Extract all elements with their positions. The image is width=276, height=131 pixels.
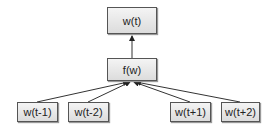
output-node: w(t) xyxy=(107,7,157,34)
context-node-t+1: w(t+1) xyxy=(170,102,211,122)
edge-wt+1-to-f xyxy=(134,82,190,102)
edge-wt+2-to-f xyxy=(136,82,240,102)
function-node: f(w) xyxy=(107,58,157,81)
context-node-t+2: w(t+2) xyxy=(221,102,260,122)
edge-wt-2-to-f xyxy=(88,82,130,102)
context-node-t-1: w(t-1) xyxy=(17,102,58,122)
context-node-t-2: w(t-2) xyxy=(68,102,109,122)
edge-wt-1-to-f xyxy=(37,82,128,102)
